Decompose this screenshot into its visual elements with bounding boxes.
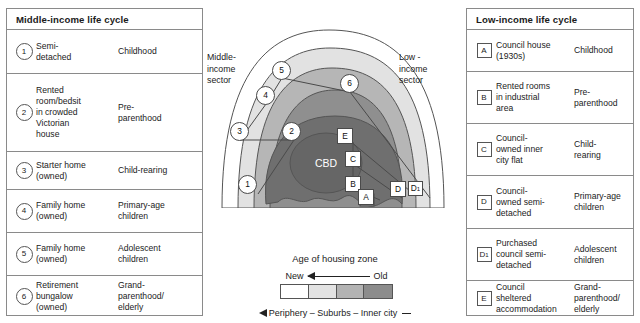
scale-end-dash-icon: [402, 313, 411, 314]
row-stage: Primary-age children: [118, 200, 194, 222]
row-key: 4: [12, 203, 36, 220]
row-stage: Pre- parenthood: [574, 87, 636, 109]
table-row: D1 Purchased council semi- detached Adol…: [467, 229, 633, 281]
low-income-life-cycle-table: Low-income life cycle A Council house (1…: [466, 8, 634, 316]
key-square-b: B: [477, 90, 492, 105]
row-key: D: [472, 195, 496, 210]
marker-d1[interactable]: D1: [408, 181, 423, 196]
figure-root: Middle-income life cycle 1 Semi- detache…: [0, 0, 640, 323]
row-key: 5: [12, 246, 36, 263]
table-row: C Council- owned inner city flat Child- …: [467, 124, 633, 176]
table-row: E Council sheltered accommodation Grand-…: [467, 281, 633, 316]
marker-2[interactable]: 2: [282, 122, 301, 141]
row-key: 6: [12, 288, 36, 305]
key-square-a: A: [477, 43, 492, 58]
row-stage: Pre- parenthood: [118, 102, 194, 124]
row-stage: Primary-age children: [574, 191, 636, 213]
low-income-sector-label: Low - income sector: [399, 52, 451, 87]
table-row: 3 Starter home (owned) Child-rearing: [7, 152, 202, 190]
middle-income-life-cycle-table: Middle-income life cycle 1 Semi- detache…: [6, 8, 203, 316]
table-row: 6 Retirement bungalow (owned) Grand- par…: [7, 276, 202, 317]
table-row: A Council house (1930s) Childhood: [467, 30, 633, 72]
row-key: 2: [12, 104, 36, 121]
key-square-d: D: [477, 195, 492, 210]
row-housing: Purchased council semi- detached: [496, 238, 574, 271]
row-housing: Family home (owned): [36, 200, 118, 222]
marker-a[interactable]: A: [358, 189, 374, 205]
table-row: 5 Family home (owned) Adolescent childre…: [7, 233, 202, 276]
marker-4[interactable]: 4: [256, 86, 275, 105]
middle-income-table-rows: 1 Semi- detached Childhood 2 Rented room…: [7, 30, 202, 317]
row-housing: Council house (1930s): [496, 40, 574, 62]
row-housing: Retirement bungalow (owned): [36, 280, 118, 313]
key-circle-4: 4: [16, 203, 33, 220]
table-row: 2 Rented room/bedsit in crowded Victoria…: [7, 74, 202, 152]
legend-old-label: Old: [374, 271, 388, 281]
age-of-housing-legend: New Old: [259, 269, 414, 299]
row-key: B: [472, 90, 496, 105]
low-income-table-rows: A Council house (1930s) Childhood B Rent…: [467, 30, 633, 316]
middle-income-sector-label: Middle- income sector: [207, 52, 259, 87]
row-housing: Council sheltered accommodation: [496, 282, 574, 315]
row-stage: Adolescent children: [574, 244, 636, 266]
key-square-e: E: [477, 291, 492, 306]
legend-arrow-icon: [308, 276, 370, 277]
key-square-c: C: [477, 142, 492, 157]
legend-band-2: [309, 285, 337, 298]
urban-housing-zone-diagram: Middle- income sector Low - income secto…: [204, 8, 466, 316]
row-key: E: [472, 291, 496, 306]
row-key: 1: [12, 43, 36, 60]
row-housing: Rented room/bedsit in crowded Victorian …: [36, 85, 118, 140]
row-housing: Starter home (owned): [36, 160, 118, 182]
row-housing: Rented rooms in industrial area: [496, 81, 574, 114]
legend-band-old: [364, 285, 392, 298]
legend-gradient-bar: [280, 284, 393, 299]
key-circle-3: 3: [16, 162, 33, 179]
marker-1[interactable]: 1: [238, 175, 257, 194]
row-stage: Child-rearing: [118, 165, 194, 176]
table-row: 1 Semi- detached Childhood: [7, 30, 202, 74]
marker-d1-sub: 1: [417, 186, 420, 192]
row-stage: Childhood: [574, 45, 636, 56]
row-key: D1: [472, 247, 496, 262]
legend-band-3: [337, 285, 365, 298]
row-stage: Adolescent children: [118, 243, 194, 265]
diagram-caption: Age of housing zone: [204, 253, 466, 264]
table-row: B Rented rooms in industrial area Pre- p…: [467, 72, 633, 124]
row-housing: Council- owned inner city flat: [496, 133, 574, 166]
periphery-suburbs-innercity-scale: Periphery – Suburbs – Inner city: [204, 308, 466, 318]
marker-3[interactable]: 3: [230, 122, 249, 141]
row-key: A: [472, 43, 496, 58]
row-housing: Family home (owned): [36, 243, 118, 265]
arrow-left-icon: [259, 309, 267, 317]
row-stage: Childhood: [118, 46, 194, 57]
row-housing: Council- owned semi- detached: [496, 186, 574, 219]
legend-new-label: New: [285, 271, 303, 281]
key-circle-6: 6: [16, 288, 33, 305]
legend-band-new: [281, 285, 309, 298]
marker-6[interactable]: 6: [340, 74, 359, 93]
key-square-d1-sub: 1: [485, 252, 488, 258]
low-income-table-title: Low-income life cycle: [467, 9, 633, 30]
legend-arrow-row: New Old: [259, 269, 414, 283]
periphery-scale-label: Periphery – Suburbs – Inner city: [269, 308, 398, 318]
middle-income-table-title: Middle-income life cycle: [7, 9, 202, 30]
row-housing: Semi- detached: [36, 41, 118, 63]
marker-5[interactable]: 5: [272, 61, 291, 80]
row-key: C: [472, 142, 496, 157]
key-square-d1: D1: [477, 247, 492, 262]
row-stage: Grand- parenthood/ elderly: [574, 282, 636, 315]
marker-e[interactable]: E: [337, 128, 353, 144]
row-stage: Child- rearing: [574, 139, 636, 161]
key-circle-5: 5: [16, 246, 33, 263]
table-row: 4 Family home (owned) Primary-age childr…: [7, 190, 202, 233]
key-circle-1: 1: [16, 43, 33, 60]
key-circle-2: 2: [16, 104, 33, 121]
row-key: 3: [12, 162, 36, 179]
cbd-core-label: CBD: [315, 157, 338, 169]
row-stage: Grand- parenthood/ elderly: [118, 280, 194, 313]
table-row: D Council- owned semi- detached Primary-…: [467, 176, 633, 229]
marker-d[interactable]: D: [390, 181, 406, 197]
marker-c[interactable]: C: [345, 151, 361, 167]
